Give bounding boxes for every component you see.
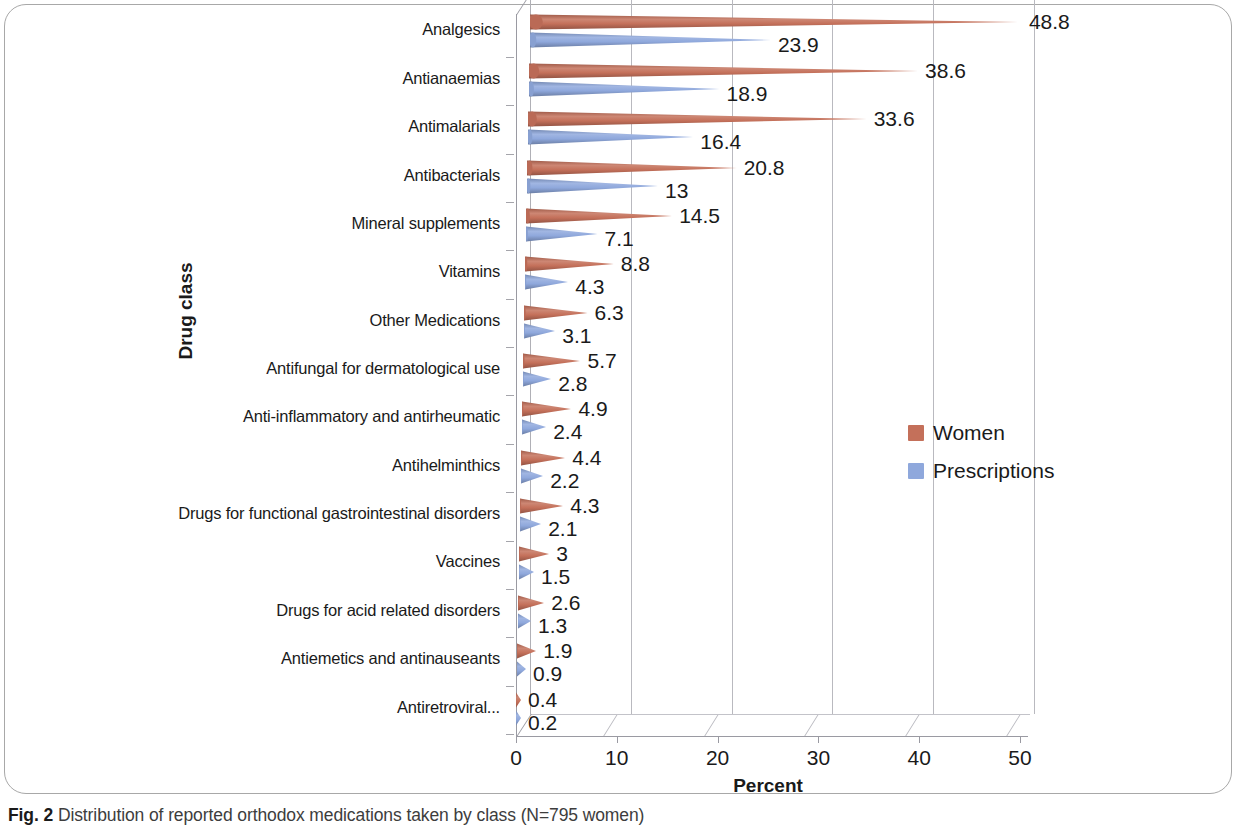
category-label-group: AnalgesicsAntianaemiasAntimalarialsAntib… — [80, 14, 500, 740]
gridline-foot-10 — [603, 714, 631, 736]
bar-prescriptions[interactable] — [526, 226, 598, 242]
x-tick-0 — [516, 736, 517, 743]
bar-prescriptions[interactable] — [523, 371, 551, 387]
data-label: 2.4 — [553, 420, 582, 444]
x-tick-label: 10 — [587, 746, 647, 770]
bar-prescriptions[interactable] — [527, 178, 658, 194]
y-tick — [506, 154, 514, 155]
bar-women[interactable] — [529, 63, 918, 79]
category-label: Antihelminthics — [80, 456, 500, 475]
legend-item-prescriptions[interactable]: Prescriptions — [908, 452, 1054, 490]
figure-caption-text: Distribution of reported orthodox medica… — [58, 805, 644, 825]
data-label: 3 — [556, 542, 568, 566]
data-label: 18.9 — [727, 82, 768, 106]
y-tick — [506, 347, 514, 348]
bar-women[interactable] — [524, 305, 588, 321]
x-tick-30 — [818, 736, 819, 743]
category-label: Vitamins — [80, 262, 500, 281]
category-label: Antiemetics and antinauseants — [80, 649, 500, 668]
y-tick — [506, 250, 514, 251]
chart-area: Drug class Percent AnalgesicsAntianaemia… — [0, 0, 1228, 790]
y-tick — [506, 589, 514, 590]
data-label: 33.6 — [874, 107, 915, 131]
x-tick-label: 0 — [486, 746, 546, 770]
y-tick — [506, 202, 514, 203]
legend-swatch-women — [908, 425, 924, 441]
y-tick — [506, 686, 514, 687]
bar-women[interactable] — [530, 14, 1022, 30]
x-axis-title: Percent — [516, 775, 1020, 797]
figure-page: Drug class Percent AnalgesicsAntianaemia… — [0, 0, 1238, 838]
bar-prescriptions[interactable] — [529, 81, 720, 97]
data-label: 2.1 — [548, 517, 577, 541]
y-tick — [506, 637, 514, 638]
bar-prescriptions[interactable] — [517, 661, 526, 677]
bar-women[interactable] — [523, 353, 580, 369]
bar-prescriptions[interactable] — [528, 129, 693, 145]
category-label: Other Medications — [80, 311, 500, 330]
bar-prescriptions[interactable] — [519, 564, 534, 580]
category-label: Analgesics — [80, 20, 500, 39]
x-tick-label: 40 — [889, 746, 949, 770]
bar-women[interactable] — [519, 546, 549, 562]
data-label: 14.5 — [679, 204, 720, 228]
x-axis-line — [516, 736, 1028, 737]
category-label: Anti-inflammatory and antirheumatic — [80, 407, 500, 426]
bar-prescriptions[interactable] — [521, 468, 543, 484]
bar-prescriptions[interactable] — [518, 613, 531, 629]
data-label: 3.1 — [562, 324, 591, 348]
data-label: 13 — [665, 179, 688, 203]
bar-women[interactable] — [528, 111, 867, 127]
category-label: Vaccines — [80, 552, 500, 571]
data-label: 5.7 — [587, 349, 616, 373]
bar-prescriptions[interactable] — [522, 419, 546, 435]
x-tick-50 — [1020, 736, 1021, 743]
gridline-foot-20 — [704, 714, 732, 736]
bar-women[interactable] — [520, 498, 563, 514]
y-tick — [506, 105, 514, 106]
data-label: 4.3 — [575, 275, 604, 299]
gridline-10 — [631, 0, 632, 714]
y-tick — [506, 492, 514, 493]
bar-women[interactable] — [527, 160, 737, 176]
gridline-50 — [1034, 0, 1035, 714]
data-label: 0.2 — [528, 711, 557, 735]
gridline-20 — [732, 0, 733, 714]
data-label: 8.8 — [621, 252, 650, 276]
legend-item-women[interactable]: Women — [908, 414, 1054, 452]
bar-prescriptions[interactable] — [530, 32, 771, 48]
bar-prescriptions[interactable] — [524, 323, 555, 339]
plot-area: 01020304050 48.823.938.618.933.616.420.8… — [512, 14, 1028, 740]
bar-women[interactable] — [526, 208, 672, 224]
bar-prescriptions[interactable] — [525, 274, 568, 290]
x-tick-label: 30 — [788, 746, 848, 770]
bar-women[interactable] — [522, 401, 571, 417]
data-label: 2.8 — [558, 372, 587, 396]
x-axis-back-line — [530, 714, 1030, 715]
bar-women[interactable] — [518, 595, 544, 611]
bar-women[interactable] — [525, 256, 614, 272]
legend-label-women: Women — [933, 421, 1005, 445]
x-tick-label: 20 — [688, 746, 748, 770]
data-label: 0.4 — [528, 688, 557, 712]
bar-women[interactable] — [521, 450, 565, 466]
category-label: Drugs for functional gastrointestinal di… — [80, 504, 500, 523]
data-label: 4.3 — [570, 494, 599, 518]
y-tick — [506, 57, 514, 58]
bar-prescriptions[interactable] — [516, 710, 521, 726]
y-tick — [506, 541, 514, 542]
y-axis-line — [516, 14, 517, 736]
x-tick-label: 50 — [990, 746, 1050, 770]
data-label: 23.9 — [778, 33, 819, 57]
data-label: 2.6 — [551, 591, 580, 615]
y-tick — [506, 395, 514, 396]
gridline-30 — [832, 0, 833, 714]
data-label: 4.9 — [578, 397, 607, 421]
x-tick-40 — [919, 736, 920, 743]
category-label: Drugs for acid related disorders — [80, 601, 500, 620]
bar-women[interactable] — [517, 643, 536, 659]
data-label: 1.9 — [543, 639, 572, 663]
bar-prescriptions[interactable] — [520, 516, 541, 532]
figure-number: Fig. 2 — [8, 805, 53, 825]
bar-women[interactable] — [516, 692, 521, 708]
